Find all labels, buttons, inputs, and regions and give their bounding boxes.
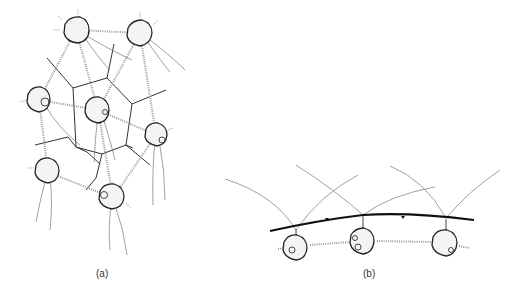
cell [99,184,131,209]
membrane-mark [401,216,405,219]
cell [20,87,50,112]
cell [27,158,59,183]
panel-a-diagram [20,9,185,255]
panel-b-diagram [225,165,500,260]
cell [145,123,173,146]
panel-a-label: (a) [96,268,108,279]
cell [85,97,109,123]
cell [53,9,89,43]
panel-b-label: (b) [363,268,375,279]
cells-a [20,9,173,209]
cell [127,12,158,46]
cells-b [283,228,457,260]
cell [283,235,307,260]
cell [350,228,374,254]
cell [432,230,457,256]
membrane [270,214,474,231]
figure-canvas [0,0,515,293]
